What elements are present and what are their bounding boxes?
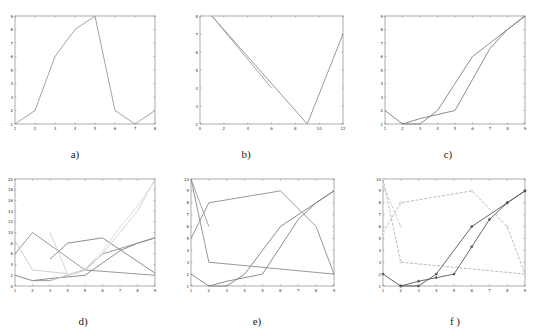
x-tick-label: 7 — [489, 126, 492, 131]
x-tick-label: 9 — [524, 126, 527, 131]
data-point-marker — [524, 190, 526, 192]
data-point-marker — [471, 225, 473, 227]
x-tick-label: 1 — [382, 288, 385, 293]
y-tick-label: 7 — [378, 212, 381, 217]
y-tick-label: 7 — [380, 41, 383, 46]
x-tick-label: 0 — [199, 126, 202, 131]
x-tick-label: 2 — [399, 288, 402, 293]
data-point-marker — [382, 184, 384, 186]
x-tick-label: 3 — [54, 126, 57, 131]
chart-b: 0246810122345678 — [200, 16, 343, 124]
chart-a-plot: 12345678123456789 — [15, 16, 155, 124]
y-tick-label: 6 — [186, 224, 189, 229]
x-tick-label: 4 — [436, 126, 439, 131]
x-tick-label: 7 — [488, 288, 491, 293]
y-tick-label: 16 — [8, 198, 14, 203]
data-point-marker — [506, 202, 508, 204]
series-line-s2 — [401, 191, 525, 286]
series-line-s8 — [68, 181, 156, 275]
x-tick-label: 1 — [384, 126, 387, 131]
y-tick-label: 3 — [380, 95, 383, 100]
y-tick-label: 6 — [378, 224, 381, 229]
y-tick-label: 5 — [380, 68, 383, 73]
x-tick-label: 8 — [506, 288, 509, 293]
chart-c: 123456789123456789 — [385, 16, 525, 124]
x-tick-label: 1 — [14, 288, 17, 293]
y-tick-label: 7 — [186, 212, 189, 217]
y-tick-label: 5 — [10, 68, 13, 73]
x-tick-label: 5 — [454, 126, 457, 131]
y-tick-label: 2 — [380, 108, 383, 113]
y-tick-label: 2 — [10, 108, 13, 113]
y-tick-label: 3 — [378, 260, 381, 265]
series-line-s2 — [212, 16, 272, 88]
y-tick-label: 20 — [8, 177, 14, 182]
x-tick-label: 7 — [297, 288, 300, 293]
y-tick-label: 2 — [186, 272, 189, 277]
chart-a: 12345678123456789 — [15, 16, 155, 124]
y-tick-label: 3 — [10, 95, 13, 100]
x-tick-label: 2 — [223, 126, 226, 131]
plot-frame — [200, 16, 343, 124]
y-tick-label: 8 — [195, 14, 198, 19]
series-line-s2 — [209, 191, 334, 286]
x-tick-label: 2 — [401, 126, 404, 131]
y-tick-label: 4 — [10, 262, 13, 267]
x-tick-label: 8 — [506, 126, 509, 131]
data-point-marker — [471, 190, 473, 192]
x-tick-label: 8 — [294, 126, 297, 131]
y-tick-label: 2 — [378, 272, 381, 277]
y-tick-label: 2 — [10, 273, 13, 278]
x-tick-label: 2 — [34, 126, 37, 131]
chart-e-plot: 12345678912345678910 — [191, 179, 334, 286]
y-tick-label: 5 — [186, 236, 189, 241]
data-point-marker — [471, 246, 473, 248]
series-line-s4 — [383, 179, 525, 274]
data-point-marker — [382, 231, 384, 233]
x-tick-label: 3 — [417, 288, 420, 293]
data-point-marker — [382, 178, 384, 180]
series-line-s1 — [212, 16, 343, 124]
x-tick-label: 1 — [14, 126, 17, 131]
x-tick-label: 8 — [136, 288, 139, 293]
y-tick-label: 6 — [380, 54, 383, 59]
data-point-marker — [400, 202, 402, 204]
series-line-s2 — [403, 16, 526, 124]
x-tick-label: 3 — [225, 288, 228, 293]
data-point-marker — [417, 280, 419, 282]
chart-d-plot: 12345678902468101214161820 — [15, 179, 155, 286]
series-line-s1 — [15, 16, 155, 124]
y-tick-label: 8 — [10, 27, 13, 32]
x-tick-label: 3 — [49, 288, 52, 293]
plot-frame — [191, 179, 334, 286]
x-tick-label: 4 — [74, 126, 77, 131]
caption-c: c) — [428, 148, 468, 160]
y-tick-label: 3 — [186, 260, 189, 265]
x-tick-label: 4 — [243, 288, 246, 293]
y-tick-label: 9 — [380, 14, 383, 19]
x-tick-label: 1 — [190, 288, 193, 293]
data-point-marker — [506, 225, 508, 227]
data-point-marker — [400, 225, 402, 227]
x-tick-label: 7 — [134, 126, 137, 131]
series-line-s5 — [15, 241, 68, 274]
chart-d: 12345678902468101214161820 — [15, 179, 155, 286]
x-tick-label: 5 — [94, 126, 97, 131]
data-point-marker — [488, 218, 490, 220]
y-tick-label: 4 — [195, 86, 198, 91]
series-line-s7 — [50, 179, 155, 281]
y-tick-label: 7 — [10, 41, 13, 46]
y-tick-label: 4 — [380, 81, 383, 86]
y-tick-label: 5 — [195, 68, 198, 73]
data-point-marker — [435, 273, 437, 275]
series-line-s6 — [50, 233, 68, 274]
caption-b: b) — [226, 148, 266, 160]
chart-b-plot: 0246810122345678 — [200, 16, 343, 124]
x-tick-label: 6 — [101, 288, 104, 293]
data-point-marker — [453, 273, 455, 275]
x-tick-label: 6 — [279, 288, 282, 293]
x-tick-label: 7 — [119, 288, 122, 293]
x-tick-label: 2 — [31, 288, 34, 293]
x-tick-label: 4 — [246, 126, 249, 131]
data-point-marker — [435, 277, 437, 279]
